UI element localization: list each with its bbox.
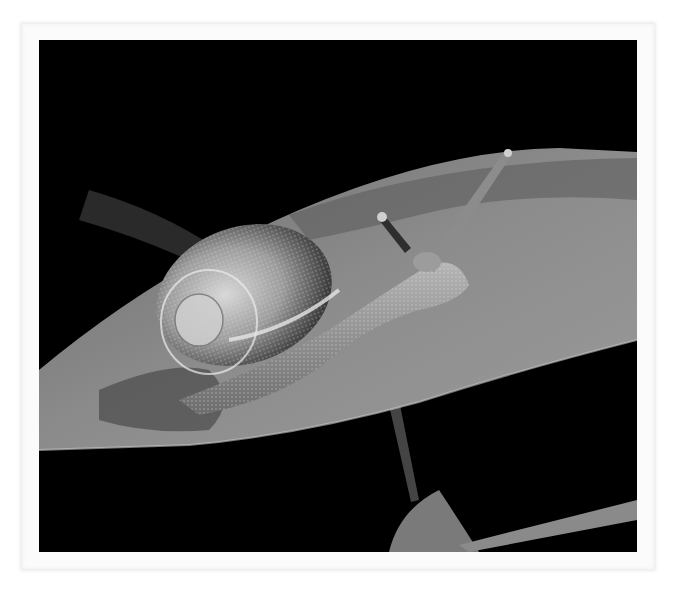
snail-photo — [39, 40, 637, 552]
eye-tip-short — [377, 212, 387, 222]
snail-head-patch — [413, 252, 441, 272]
eye-tip-long — [504, 149, 512, 157]
leaf-lower — [389, 490, 479, 552]
snail-photo-illustration — [39, 40, 637, 552]
shell-whorl-inner — [175, 294, 223, 346]
stem-lower — [389, 400, 419, 502]
caption-text-partial — [0, 580, 684, 593]
stem-right — [459, 500, 637, 552]
